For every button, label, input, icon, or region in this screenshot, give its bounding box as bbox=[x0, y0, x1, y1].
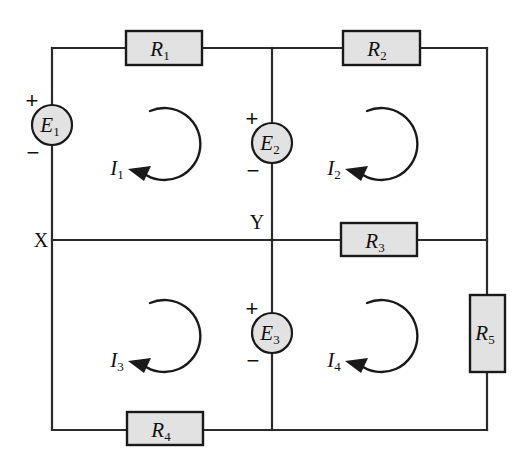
mesh-current-I3-label: I3 bbox=[109, 348, 124, 374]
mesh-current-I1: I1 bbox=[109, 108, 200, 181]
mesh-current-I2-arc bbox=[360, 108, 417, 180]
resistor-R2[interactable]: R2 bbox=[343, 31, 420, 65]
mesh-current-I1-arc bbox=[143, 108, 200, 180]
mesh-current-I3-arrowhead bbox=[128, 358, 151, 373]
voltage-source-E2-plus-sign: + bbox=[246, 106, 259, 131]
voltage-source-E2[interactable]: E2 + − bbox=[246, 106, 292, 183]
voltage-source-E3[interactable]: E3 + − bbox=[246, 296, 292, 373]
voltage-source-E2-minus-sign: − bbox=[247, 158, 260, 183]
mesh-current-I2-arrowhead bbox=[345, 166, 368, 181]
mesh-current-I4: I4 bbox=[326, 300, 417, 373]
mesh-current-I4-label: I4 bbox=[326, 348, 341, 374]
voltage-source-E3-plus-sign: + bbox=[246, 296, 259, 321]
resistor-R3[interactable]: R3 bbox=[341, 223, 417, 256]
mesh-current-I4-arc bbox=[360, 300, 417, 372]
mesh-current-I2: I2 bbox=[326, 108, 417, 181]
voltage-source-E3-minus-sign: − bbox=[247, 348, 260, 373]
mesh-current-I1-label: I1 bbox=[109, 156, 124, 182]
resistor-R1[interactable]: R1 bbox=[126, 31, 202, 65]
mesh-current-I3-arc bbox=[143, 300, 200, 372]
node-label-X: X bbox=[34, 229, 49, 251]
voltage-source-E1-minus-sign: − bbox=[27, 140, 40, 165]
mesh-current-I3: I3 bbox=[109, 300, 200, 373]
voltage-source-E1[interactable]: E1 + − bbox=[26, 88, 72, 165]
circuit-diagram: Four-mesh DC resistor network with three… bbox=[0, 0, 532, 470]
node-label-Y: Y bbox=[250, 211, 264, 233]
voltage-source-E1-plus-sign: + bbox=[26, 88, 39, 113]
resistor-R4[interactable]: R4 bbox=[127, 412, 203, 445]
mesh-current-I1-arrowhead bbox=[128, 166, 151, 181]
mesh-current-I2-label: I2 bbox=[326, 156, 341, 182]
resistor-R5[interactable]: R5 bbox=[470, 295, 505, 372]
mesh-current-I4-arrowhead bbox=[345, 358, 368, 373]
